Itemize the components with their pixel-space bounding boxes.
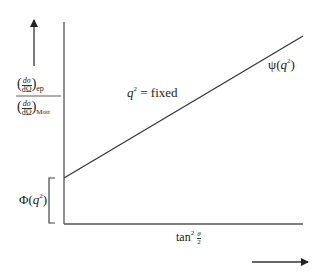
line-annotation: q2 = fixed [127, 85, 178, 101]
diagram-canvas [0, 0, 322, 280]
y-label-denominator: (dσdΩ)Mott [17, 99, 50, 117]
slope-label: ψ(q2) [268, 57, 295, 73]
intercept-bracket [49, 178, 55, 223]
y-label-numerator: (dσdΩ)ep [17, 76, 44, 94]
x-axis-label: tan2 θ2 [176, 229, 201, 246]
intercept-label: Φ(q2) [19, 192, 47, 208]
